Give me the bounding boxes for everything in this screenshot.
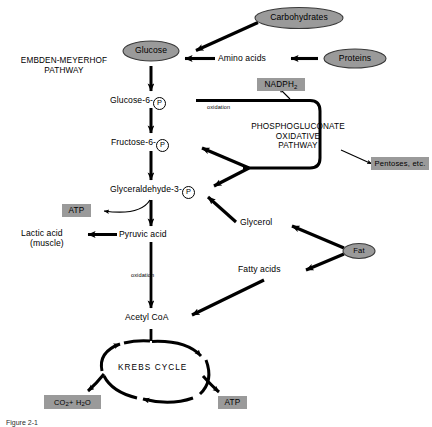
label-fat: Fat (343, 247, 375, 255)
box-atp-glycolysis[interactable]: ATP (62, 204, 91, 217)
co2-subscript: 2 (66, 401, 70, 407)
heading-phosphogluconate: PHOSPHOGLUCONATE OXIDATIVE PATHWAY (238, 122, 358, 151)
box-atp-krebs[interactable]: ATP (218, 396, 247, 409)
label-glycerol: Glycerol (240, 218, 272, 227)
label-pyruvic-acid: Pyruvic acid (119, 230, 167, 239)
phospho-line-3: PATHWAY (238, 141, 358, 151)
label-fatty-acids: Fatty acids (238, 265, 281, 274)
pathway-diagram: Carbohydrates Glucose Proteins Fat Amino… (0, 0, 432, 427)
label-glucose-6-phosphate: Glucose-6-P (110, 96, 166, 110)
phospho-line-2: OXIDATIVE (238, 132, 358, 142)
plus-h-text: + H (69, 398, 81, 407)
annotation-oxidation-pyruvate: oxidation (131, 272, 154, 278)
h2o-subscript: 2 (81, 401, 85, 407)
figure-caption: Figure 2-1 (6, 419, 38, 426)
label-glucose: Glucose (121, 46, 181, 55)
phosphate-circle-icon: P (153, 97, 166, 110)
label-fructose-6-phosphate: Fructose-6-P (111, 138, 169, 152)
label-glyceraldehyde-3-phosphate: Glyceraldehyde-3-P (110, 185, 195, 199)
phospho-line-1: PHOSPHOGLUCONATE (238, 122, 358, 132)
h2o-end-text: O (85, 398, 91, 407)
nadph2-subscript: 2 (294, 84, 298, 90)
box-pentoses[interactable]: Pentoses, etc. (371, 157, 429, 170)
fructose-6-p-text: Fructose-6- (111, 137, 156, 147)
label-proteins: Proteins (326, 54, 384, 63)
nadph2-text: NADPH (264, 80, 294, 89)
heading-embden-meyerhof: EMBDEN-MEYERHOF PATHWAY (8, 56, 120, 75)
co2-text: CO (54, 398, 66, 407)
embden-line-2: PATHWAY (8, 66, 120, 76)
glucose-6-p-text: Glucose-6- (110, 95, 153, 105)
phosphate-circle-icon: P (182, 186, 195, 199)
annotation-oxidation-g6p: oxidation (207, 104, 230, 110)
label-amino-acids: Amino acids (218, 54, 266, 63)
embden-line-1: EMBDEN-MEYERHOF (8, 56, 120, 66)
heading-krebs-cycle: KREBS CYCLE (118, 363, 187, 372)
phosphate-circle-icon: P (156, 139, 169, 152)
box-nadph2[interactable]: NADPH2 (257, 78, 305, 91)
label-acetyl-coa: Acetyl CoA (125, 313, 169, 322)
label-lactic-acid: Lactic acid (21, 229, 63, 238)
label-carbohydrates: Carbohydrates (258, 13, 340, 22)
glyceraldehyde-3-p-text: Glyceraldehyde-3- (110, 184, 182, 194)
label-lactic-acid-qualifier: (muscle) (30, 239, 64, 248)
box-co2-h2o[interactable]: CO2 + H2O (44, 395, 101, 409)
